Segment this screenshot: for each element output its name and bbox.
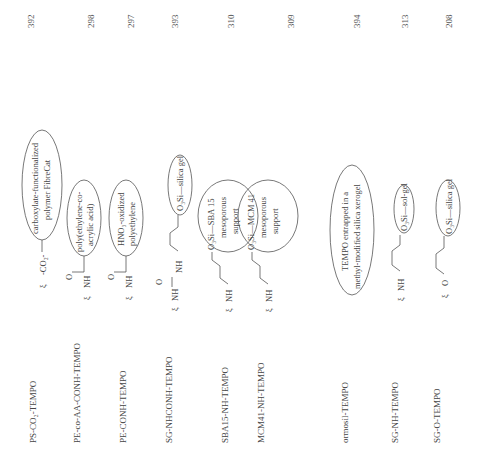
svg-text:O: O <box>64 274 74 280</box>
structure-mcm41: O₃Si—MCM 41 mesoporous support NH ξ <box>238 180 308 310</box>
catalyst-name: SBA15-NH-TEMPO <box>220 367 230 443</box>
svg-text:O₃Si—silica gel: O₃Si—silica gel <box>444 178 454 234</box>
svg-text:support: support <box>270 208 280 234</box>
svg-text:ξ: ξ <box>265 308 274 312</box>
svg-text:O₃Si—SBA 15: O₃Si—SBA 15 <box>206 199 216 250</box>
catalyst-name: PE-CONH-TEMPO <box>118 370 128 443</box>
svg-text:-CO₂-: -CO₂- <box>38 254 48 275</box>
svg-text:poly(ethylene-co-: poly(ethylene-co- <box>74 191 84 252</box>
svg-text:NH: NH <box>264 290 274 302</box>
svg-text:O: O <box>106 274 116 280</box>
svg-text:acrylic acid): acrylic acid) <box>85 204 95 246</box>
svg-text:ξ: ξ <box>225 308 234 312</box>
svg-text:NH: NH <box>82 276 92 288</box>
catalyst-name: SG-NHCONH-TEMPO <box>164 356 174 443</box>
svg-text:polyethylene: polyethylene <box>127 202 137 246</box>
svg-text:O₃Si—MCM 41: O₃Si—MCM 41 <box>246 194 256 250</box>
ref-number: 310 <box>226 15 236 29</box>
ref-number: 208 <box>444 15 454 29</box>
ref-number: 394 <box>352 15 362 29</box>
svg-text:ξ: ξ <box>83 296 92 300</box>
svg-text:NH: NH <box>170 289 180 301</box>
svg-text:ξ: ξ <box>441 294 450 298</box>
ref-number: 392 <box>26 15 36 29</box>
ref-number: 309 <box>286 15 296 29</box>
svg-text:NH: NH <box>224 290 234 302</box>
structure-ormosil: TEMPO entrapped in a methyl-modified sil… <box>324 165 384 305</box>
svg-text:mesoporous: mesoporous <box>258 197 268 238</box>
table-row-ormosil-tempo: 394 TEMPO entrapped in a methyl-modified… <box>320 0 380 457</box>
catalyst-name: PE-co-AA-CONH-TEMPO <box>72 343 82 443</box>
structure-sg-nh: O₃Si—sol-gel NH ξ <box>376 185 426 310</box>
ref-number: 313 <box>400 15 410 29</box>
svg-text:methyl-modified silica xerogel: methyl-modified silica xerogel <box>352 184 362 289</box>
svg-text:mesoporous: mesoporous <box>218 197 228 238</box>
table-row-sg-nhconh-tempo: 393 O₃Si—silica gel NH O NH ξ SG-NHCONH-… <box>150 0 200 457</box>
catalyst-name: SG-NH-TEMPO <box>390 382 400 443</box>
svg-text:carboxylate-functionalized: carboxylate-functionalized <box>30 142 40 234</box>
svg-text:O₃Si—sol-gel: O₃Si—sol-gel <box>399 183 409 231</box>
table-row-mcm41-nh-tempo: 309 O₃Si—MCM 41 mesoporous support NH ξ … <box>260 0 320 457</box>
table-row-sg-o-tempo: 208 O₃Si—silica gel O ξ SG-O-TEMPO <box>430 0 485 457</box>
catalyst-name: PS-CO₂-TEMPO <box>28 381 38 443</box>
svg-text:ξ: ξ <box>125 296 134 300</box>
catalyst-name: ormosil-TEMPO <box>340 382 350 443</box>
table-row-ps-co2-tempo: 392 carboxylate-functionalized polymer F… <box>0 0 60 457</box>
structure-sg-o: O₃Si—silica gel O ξ <box>420 180 470 305</box>
svg-text:NH: NH <box>174 261 184 273</box>
ref-number: 393 <box>170 15 180 29</box>
svg-text:ξ: ξ <box>397 297 406 301</box>
svg-text:TEMPO entrapped in a: TEMPO entrapped in a <box>340 192 350 271</box>
svg-text:ξ: ξ <box>171 307 180 311</box>
svg-text:ξ: ξ <box>39 284 48 288</box>
svg-text:polymer FibreCat: polymer FibreCat <box>42 159 52 220</box>
svg-text:O₃Si—silica gel: O₃Si—silica gel <box>175 155 185 211</box>
svg-text:HNO₃-oxidized: HNO₃-oxidized <box>116 192 126 246</box>
svg-text:O: O <box>154 279 164 285</box>
ref-number: 298 <box>86 15 96 29</box>
svg-text:NH: NH <box>124 276 134 288</box>
svg-text:O: O <box>440 280 450 286</box>
ref-number: 297 <box>126 15 136 29</box>
table-row-pe-co-aa-conh-tempo: 298 poly(ethylene-co- acrylic acid) O NH… <box>60 0 110 457</box>
catalyst-name: MCM41-NH-TEMPO <box>256 362 266 443</box>
svg-text:NH: NH <box>396 279 406 291</box>
table-row-pe-conh-tempo: 297 HNO₃-oxidized polyethylene O NH ξ PE… <box>110 0 150 457</box>
catalyst-name: SG-O-TEMPO <box>432 388 442 443</box>
